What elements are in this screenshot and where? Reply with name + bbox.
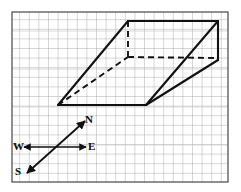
compass-label-east: E	[88, 141, 95, 152]
graph-paper-figure	[0, 0, 241, 192]
compass-label-south: S	[15, 166, 21, 177]
figure-container: N E W S	[0, 0, 241, 192]
compass-label-west: W	[13, 141, 24, 152]
compass-label-north: N	[85, 114, 93, 125]
